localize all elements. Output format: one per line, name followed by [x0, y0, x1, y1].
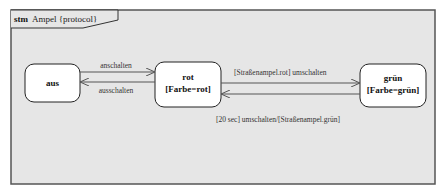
- state-aus[interactable]: aus: [25, 64, 80, 102]
- state-gruen[interactable]: grün [Farbe=grün]: [360, 64, 426, 107]
- transition-gruen-rot-label: [20 sec] umschalten/[Straßenampel.grün]: [216, 115, 340, 124]
- state-rot-invariant: [Farbe=rot]: [165, 84, 210, 94]
- state-aus-name: aus: [46, 78, 60, 88]
- state-gruen-name: grün: [384, 73, 403, 83]
- state-machine-diagram: stm Ampel {protocol} aus rot [Farbe=rot]…: [0, 0, 445, 195]
- state-gruen-invariant: [Farbe=grün]: [367, 85, 420, 95]
- state-rot[interactable]: rot [Farbe=rot]: [155, 62, 221, 107]
- frame-kind-label: stm: [14, 14, 28, 24]
- transition-rot-gruen-label: [Straßenampel.rot] umschalten: [234, 68, 327, 77]
- state-rot-name: rot: [182, 72, 193, 82]
- transition-anschalten-label: anschalten: [100, 61, 132, 70]
- transition-ausschalten-label: ausschalten: [99, 86, 134, 95]
- frame-name-label: Ampel {protocol}: [32, 14, 97, 24]
